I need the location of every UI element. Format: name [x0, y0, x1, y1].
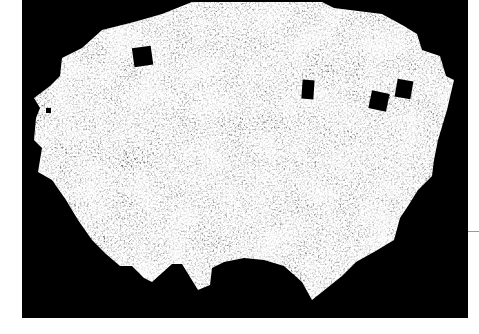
mask-hole: [368, 90, 389, 111]
mask-hole: [395, 79, 414, 100]
sky-map-figure: [22, 0, 468, 318]
mask-hole: [46, 108, 51, 113]
mask-hole: [132, 46, 153, 67]
edge-tick-mark: [468, 231, 479, 232]
mask-hole: [301, 80, 314, 100]
sky-map-svg: [22, 0, 468, 318]
